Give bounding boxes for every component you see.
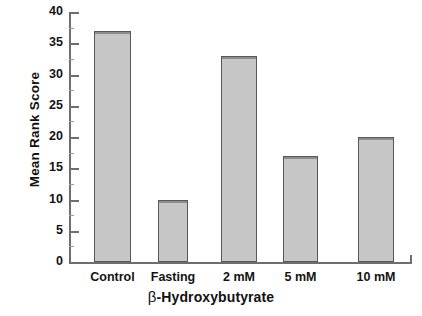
y-minor-tick-7-5 xyxy=(69,215,74,216)
y-minor-tick-2-5 xyxy=(69,246,74,247)
y-tick-15: 15 xyxy=(69,168,79,170)
y-tick-label-35: 35 xyxy=(37,35,63,49)
y-tick-label-20: 20 xyxy=(37,129,63,143)
bar-fasting[interactable] xyxy=(158,200,188,263)
beta-symbol: β xyxy=(148,288,157,305)
y-tick-30: 30 xyxy=(69,75,79,77)
bar-top-edge xyxy=(359,138,393,140)
x-tick-label-control: Control xyxy=(90,270,134,284)
x-tick-label-10mm: 10 mM xyxy=(357,270,396,284)
y-minor-tick-37-5 xyxy=(69,28,74,29)
y-tick-label-10: 10 xyxy=(37,192,63,206)
bar-chart-figure: Mean Rank Score 0 5 10 15 20 25 30 35 xyxy=(0,0,422,316)
y-tick-10: 10 xyxy=(69,200,79,202)
y-tick-label-0: 0 xyxy=(37,254,63,268)
bar-control[interactable] xyxy=(94,31,131,262)
x-axis-title: β-Hydroxybutyrate xyxy=(0,288,422,305)
x-tick-label-2mm: 2 mM xyxy=(223,270,255,284)
x-axis-line xyxy=(69,262,412,264)
bar-top-edge xyxy=(95,32,130,34)
y-tick-5: 5 xyxy=(69,231,79,233)
y-tick-label-5: 5 xyxy=(37,223,63,237)
bar-top-edge xyxy=(159,201,187,203)
y-tick-35: 35 xyxy=(69,43,79,45)
bar-top-edge xyxy=(284,157,317,159)
y-tick-40: 40 xyxy=(69,12,79,14)
bar-5mm[interactable] xyxy=(283,156,318,262)
y-tick-25: 25 xyxy=(69,106,79,108)
y-minor-tick-32-5 xyxy=(69,59,74,60)
plot-area: 0 5 10 15 20 25 30 35 40 xyxy=(69,12,412,262)
y-minor-tick-22-5 xyxy=(69,121,74,122)
bar-top-edge xyxy=(222,57,256,59)
y-tick-20: 20 xyxy=(69,137,79,139)
y-tick-0: 0 xyxy=(69,262,79,264)
y-minor-tick-27-5 xyxy=(69,90,74,91)
y-minor-tick-17-5 xyxy=(69,153,74,154)
y-tick-label-15: 15 xyxy=(37,160,63,174)
x-tick-label-5mm: 5 mM xyxy=(285,270,317,284)
bar-2mm[interactable] xyxy=(221,56,257,262)
y-tick-label-30: 30 xyxy=(37,67,63,81)
x-axis-title-text: -Hydroxybutyrate xyxy=(157,289,275,305)
y-minor-tick-12-5 xyxy=(69,184,74,185)
y-tick-label-40: 40 xyxy=(37,4,63,18)
bar-10mm[interactable] xyxy=(358,137,394,262)
x-axis-end-tick xyxy=(410,255,412,264)
y-tick-label-25: 25 xyxy=(37,98,63,112)
x-tick-label-fasting: Fasting xyxy=(151,270,195,284)
